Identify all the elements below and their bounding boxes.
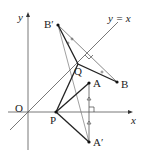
point-b xyxy=(115,80,118,83)
y-axis-arrow-icon xyxy=(26,12,30,17)
x-axis-label: x xyxy=(131,115,136,126)
diagram-canvas xyxy=(0,0,141,161)
point-aprime xyxy=(87,140,90,143)
segment-p-a xyxy=(56,83,89,112)
origin-label: O xyxy=(15,103,23,114)
segment-p-aprime xyxy=(56,112,89,142)
point-a xyxy=(87,81,90,84)
point-p-label: P xyxy=(50,115,56,126)
segment-bprime-aprime xyxy=(58,25,89,142)
y-axis-label: y xyxy=(18,12,23,23)
line-y-equals-x xyxy=(10,22,118,130)
point-b-label: B xyxy=(121,79,128,90)
point-bprime-label: B′ xyxy=(44,19,54,30)
point-a-label: A xyxy=(93,78,101,89)
right-angle-mark-icon xyxy=(85,55,93,59)
line-label: y = x xyxy=(108,13,131,24)
point-q-label: Q xyxy=(74,66,82,77)
equal-mark-icon xyxy=(101,71,103,73)
point-aprime-label: A′ xyxy=(93,137,103,148)
right-angle-mark-icon xyxy=(89,107,94,112)
point-bprime xyxy=(56,23,59,26)
